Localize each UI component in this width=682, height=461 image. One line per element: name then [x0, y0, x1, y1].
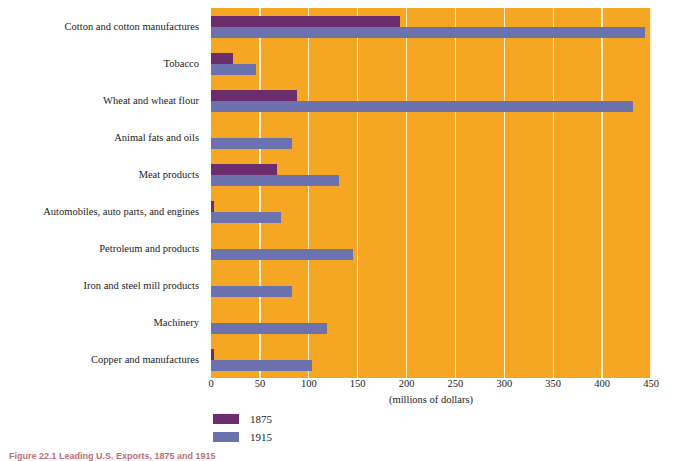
x-tick-label: 250: [448, 378, 464, 389]
bar-1875-2: [211, 53, 233, 64]
chart-legend: 1875 1915: [213, 411, 413, 447]
figure-caption: Figure 22.1 Leading U.S. Exports, 1875 a…: [9, 451, 429, 461]
bar-1915-10: [211, 360, 312, 371]
bar-1915-7: [211, 249, 353, 260]
bar-1915-3: [211, 101, 633, 112]
category-label-column: Cotton and cotton manufacturesTobaccoWhe…: [0, 8, 205, 378]
x-tick-label: 0: [208, 378, 213, 389]
x-tick-label: 150: [350, 378, 366, 389]
bar-1915-8: [211, 286, 292, 297]
bar-1875-3: [211, 90, 297, 101]
bar-1915-9: [211, 323, 327, 334]
gridline: [601, 8, 602, 378]
gridline: [357, 8, 358, 378]
category-label: Iron and steel mill products: [0, 280, 199, 291]
category-label: Meat products: [0, 169, 199, 180]
bar-1915-1: [211, 27, 645, 38]
category-label: Tobacco: [0, 58, 199, 69]
bar-1875-1: [211, 16, 400, 27]
gridline: [553, 8, 554, 378]
legend-swatch-1875: [213, 414, 239, 424]
x-tick-label: 100: [301, 378, 317, 389]
x-tick-label: 350: [545, 378, 561, 389]
category-label: Animal fats and oils: [0, 132, 199, 143]
legend-item-1915: 1915: [213, 429, 413, 445]
gridline: [406, 8, 407, 378]
category-label: Cotton and cotton manufactures: [0, 21, 199, 32]
x-tick-label: 400: [594, 378, 610, 389]
bar-1915-4: [211, 138, 292, 149]
bar-1915-2: [211, 64, 256, 75]
category-label: Copper and manufactures: [0, 354, 199, 365]
gridline: [504, 8, 505, 378]
gridline: [650, 8, 651, 378]
chart-plot-area: [211, 8, 651, 378]
category-label: Wheat and wheat flour: [0, 95, 199, 106]
category-label: Petroleum and products: [0, 243, 199, 254]
x-tick-label: 300: [496, 378, 512, 389]
x-tick-label: 50: [255, 378, 266, 389]
category-label: Automobiles, auto parts, and engines: [0, 206, 199, 217]
legend-swatch-1915: [213, 432, 239, 442]
bar-1915-5: [211, 175, 339, 186]
x-tick-label: 200: [399, 378, 415, 389]
x-axis-title: (millions of dollars): [211, 394, 651, 405]
legend-label-1875: 1875: [250, 413, 272, 425]
category-label: Machinery: [0, 317, 199, 328]
legend-item-1875: 1875: [213, 411, 413, 427]
bar-1875-6: [211, 201, 214, 212]
bar-1875-5: [211, 164, 277, 175]
x-tick-label: 450: [643, 378, 659, 389]
bar-1915-6: [211, 212, 281, 223]
legend-label-1915: 1915: [250, 431, 272, 443]
x-axis-tick-labels: 050100150200250300350400450: [211, 378, 651, 394]
bar-1875-10: [211, 349, 214, 360]
gridline: [455, 8, 456, 378]
